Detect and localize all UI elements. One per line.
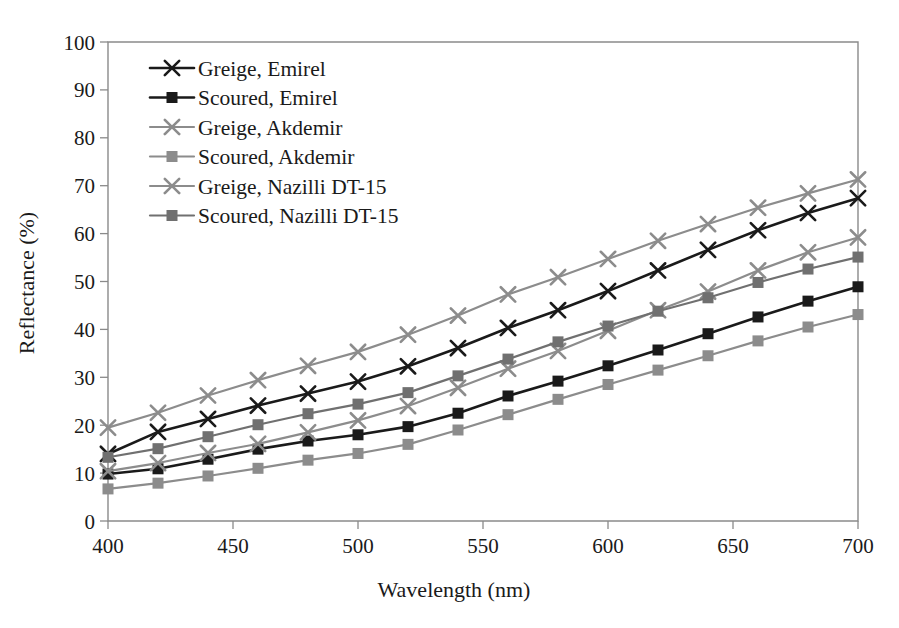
y-tick-label: 100	[64, 31, 96, 55]
data-point-marker-square	[253, 463, 264, 474]
legend-item-label: Scoured, Emirel	[198, 86, 338, 110]
y-axis-title: Reflectance (%)	[14, 212, 39, 354]
data-point-marker-square	[503, 390, 514, 401]
data-point-marker-square	[753, 335, 764, 346]
data-point-marker-square	[653, 344, 664, 355]
data-point-marker-square	[853, 252, 864, 263]
reflectance-line-chart: 0102030405060708090100400450500550600650…	[0, 0, 899, 628]
data-point-marker-square	[703, 328, 714, 339]
data-point-marker-square	[303, 455, 314, 466]
legend-item-label: Greige, Akdemir	[198, 116, 343, 140]
data-point-marker-square	[753, 277, 764, 288]
data-point-marker-square	[703, 292, 714, 303]
data-point-marker-square	[453, 424, 464, 435]
data-point-marker-square	[553, 394, 564, 405]
data-point-marker-square	[603, 379, 614, 390]
data-point-marker-square	[453, 370, 464, 381]
y-tick-label: 80	[74, 126, 95, 150]
data-point-marker-square	[853, 309, 864, 320]
data-point-marker-square	[803, 264, 814, 275]
chart-figure: 0102030405060708090100400450500550600650…	[0, 0, 899, 628]
data-point-marker-square	[153, 463, 164, 474]
plot-canvas: 0102030405060708090100400450500550600650…	[0, 0, 899, 628]
data-point-marker-square	[803, 296, 814, 307]
data-point-marker-square	[303, 408, 314, 419]
y-tick-label: 20	[74, 414, 95, 438]
data-point-marker-square	[603, 321, 614, 332]
data-point-marker-square	[167, 151, 178, 162]
x-axis-title: Wavelength (nm)	[378, 577, 531, 602]
data-point-marker-square	[153, 443, 164, 454]
y-tick-label: 70	[74, 174, 95, 198]
data-point-marker-square	[453, 408, 464, 419]
data-point-marker-square	[853, 281, 864, 292]
y-tick-label: 50	[74, 270, 95, 294]
data-point-marker-square	[503, 409, 514, 420]
data-point-marker-square	[167, 92, 178, 103]
x-tick-label: 700	[842, 534, 874, 558]
data-point-marker-square	[603, 360, 614, 371]
data-point-marker-square	[753, 311, 764, 322]
data-point-marker-square	[353, 429, 364, 440]
y-tick-label: 0	[85, 510, 96, 534]
legend-item-label: Scoured, Akdemir	[198, 145, 354, 169]
data-point-marker-square	[103, 483, 114, 494]
y-tick-label: 60	[74, 222, 95, 246]
data-point-marker-square	[253, 419, 264, 430]
y-tick-label: 10	[74, 462, 95, 486]
data-point-marker-square	[553, 376, 564, 387]
legend-item-label: Greige, Emirel	[198, 57, 326, 81]
x-tick-label: 600	[592, 534, 624, 558]
x-tick-label: 650	[717, 534, 749, 558]
data-point-marker-square	[153, 478, 164, 489]
data-point-marker-square	[653, 365, 664, 376]
data-point-marker-square	[167, 210, 178, 221]
data-point-marker-square	[803, 322, 814, 333]
y-tick-label: 30	[74, 366, 95, 390]
x-tick-label: 450	[217, 534, 249, 558]
y-tick-label: 90	[74, 78, 95, 102]
data-point-marker-square	[553, 336, 564, 347]
data-point-marker-square	[203, 470, 214, 481]
y-tick-label: 40	[74, 318, 95, 342]
data-point-marker-square	[653, 306, 664, 317]
legend-item-label: Greige, Nazilli DT-15	[198, 175, 386, 199]
x-tick-label: 400	[92, 534, 124, 558]
data-point-marker-square	[403, 439, 414, 450]
data-point-marker-square	[353, 399, 364, 410]
x-tick-label: 550	[467, 534, 499, 558]
data-point-marker-square	[103, 452, 114, 463]
data-point-marker-square	[703, 350, 714, 361]
legend-item-label: Scoured, Nazilli DT-15	[198, 204, 398, 228]
data-point-marker-square	[503, 354, 514, 365]
x-tick-label: 500	[342, 534, 374, 558]
data-point-marker-square	[403, 421, 414, 432]
data-point-marker-square	[203, 431, 214, 442]
data-point-marker-square	[353, 448, 364, 459]
data-point-marker-square	[403, 387, 414, 398]
